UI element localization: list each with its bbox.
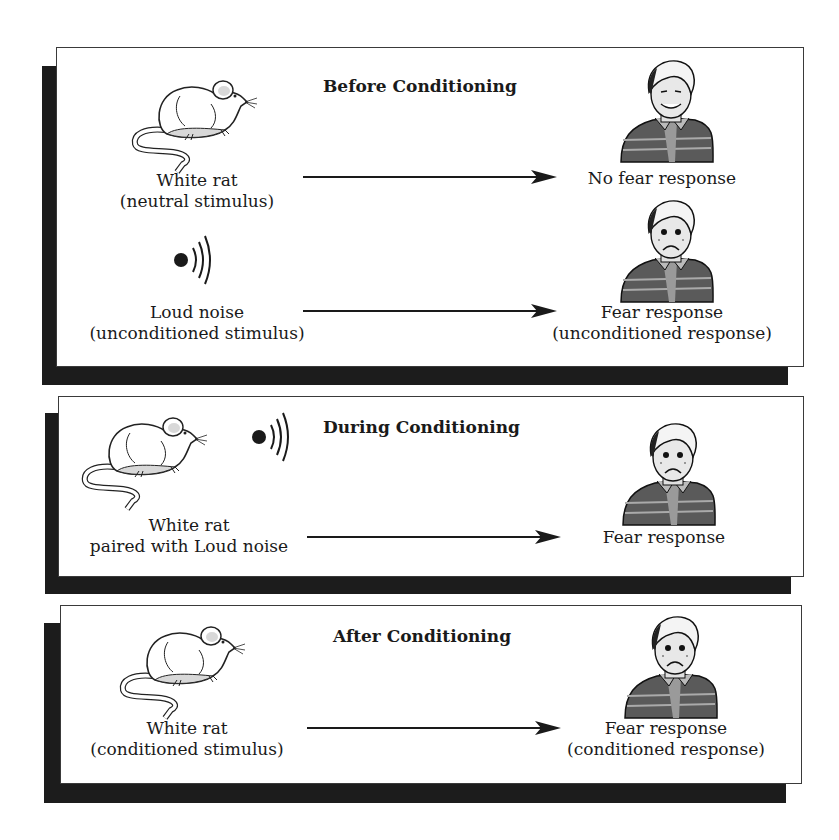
- panel-after-conditioning: After Conditioning White rat (conditione…: [60, 605, 802, 784]
- rat-icon: [125, 68, 265, 178]
- stimulus-label: Loud noise (unconditioned stimulus): [67, 302, 327, 344]
- panel-during-conditioning: During Conditioning White rat paired wit…: [58, 396, 804, 577]
- response-label: Fear response (conditioned response): [551, 718, 781, 760]
- stimulus-label: White rat (neutral stimulus): [87, 170, 307, 212]
- response-label: Fear response (unconditioned response): [537, 302, 787, 344]
- arrow-icon: [307, 721, 563, 735]
- arrow-icon: [307, 530, 563, 544]
- rat-icon: [113, 614, 253, 724]
- loud-noise-icon: [173, 234, 219, 288]
- smiling-boy-icon: [617, 58, 717, 164]
- response-label: No fear response: [557, 168, 767, 189]
- loud-noise-icon: [251, 411, 297, 465]
- frightened-boy-icon: [619, 421, 719, 527]
- panel-title: After Conditioning: [333, 626, 511, 646]
- arrow-icon: [303, 304, 559, 318]
- arrow-icon: [303, 170, 559, 184]
- stimulus-label: White rat (conditioned stimulus): [77, 718, 297, 760]
- panel-title: Before Conditioning: [323, 76, 517, 96]
- frightened-boy-icon: [617, 198, 717, 304]
- stimulus-label: White rat paired with Loud noise: [69, 515, 309, 557]
- panel-title: During Conditioning: [323, 417, 520, 437]
- rat-icon: [75, 405, 215, 515]
- frightened-boy-icon: [621, 614, 721, 720]
- panel-before-conditioning: Before Conditioning White rat (neutral s…: [56, 47, 804, 367]
- response-label: Fear response: [559, 527, 769, 548]
